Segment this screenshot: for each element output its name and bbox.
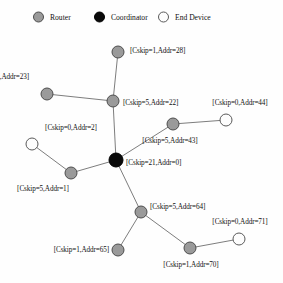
edge-n64-n70 <box>141 212 190 248</box>
network-topology-diagram: RouterCoordinatorEnd Device [Cskip=21,Ad… <box>0 0 283 283</box>
node-label-addr-2: [Cskip=0,Addr=2] <box>45 124 97 132</box>
node-router-addr-43[interactable] <box>167 118 180 131</box>
node-label-addr-44: [Cskip=0,Addr=44] <box>212 99 267 107</box>
node-router-addr-1[interactable] <box>65 167 78 180</box>
node-label-addr-64: [Cskip=5,Addr=64] <box>150 203 205 211</box>
node-enddevice-addr-44[interactable] <box>220 114 233 127</box>
node-label-addr-28: [Cskip=1,Addr=28] <box>130 47 185 55</box>
node-router-addr-65[interactable] <box>112 244 125 257</box>
node-label-addr-43: [Cskip=5,Addr=43] <box>142 137 197 145</box>
edge-n22-n23 <box>47 94 113 101</box>
node-router-addr-64[interactable] <box>135 206 148 219</box>
node-label-addr-71: [Cskip=0,Addr=71] <box>212 218 267 226</box>
node-router-addr-22[interactable] <box>107 95 120 108</box>
node-enddevice-addr-71[interactable] <box>233 233 246 246</box>
node-label-addr-22: [Cskip=5,Addr=22] <box>123 99 178 107</box>
node-router-addr-70[interactable] <box>184 242 197 255</box>
edge-n0-n22 <box>113 101 116 160</box>
node-coordinator-addr-0[interactable] <box>109 153 124 168</box>
node-label-addr-70: [Cskip=1,Addr=70] <box>163 261 218 269</box>
node-label-addr-1: [Cskip=5,Addr=1] <box>17 185 69 193</box>
edge-n0-n64 <box>116 160 141 212</box>
node-enddevice-addr-2[interactable] <box>26 138 39 151</box>
node-label-addr-65: [Cskip=1,Addr=65] <box>54 246 109 254</box>
node-label-addr-0: [Cskip=21,Addr=0] <box>126 159 181 167</box>
node-label-addr-23: [Cskip=1,Addr=23] <box>0 73 29 81</box>
node-router-addr-23[interactable] <box>41 88 54 101</box>
node-router-addr-28[interactable] <box>112 46 125 59</box>
edge-n43-n44 <box>173 120 226 124</box>
